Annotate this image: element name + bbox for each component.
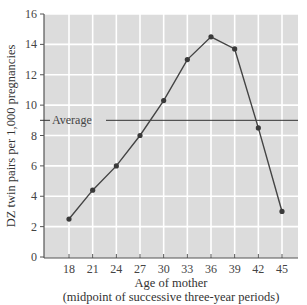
y-tick-label: 12 bbox=[25, 68, 37, 82]
y-tick-label: 10 bbox=[25, 98, 37, 112]
y-tick-label: 4 bbox=[31, 189, 37, 203]
x-tick-label: 45 bbox=[276, 262, 288, 276]
data-point bbox=[137, 133, 142, 138]
y-tick-label: 14 bbox=[25, 37, 37, 51]
data-point bbox=[279, 209, 284, 214]
x-tick-label: 24 bbox=[110, 262, 122, 276]
y-tick-label: 6 bbox=[31, 159, 37, 173]
y-tick-labels: 0246810121416 bbox=[25, 7, 37, 264]
data-point bbox=[66, 216, 71, 221]
x-tick-label: 36 bbox=[205, 262, 217, 276]
y-tick-label: 2 bbox=[31, 220, 37, 234]
average-label: Average bbox=[52, 113, 92, 127]
x-tick-labels: 18212427303336394245 bbox=[63, 262, 288, 276]
y-axis-title: DZ twin pairs per 1,000 pregnancies bbox=[4, 45, 18, 228]
twin-rate-chart: Average 0246810121416 182124273033363942… bbox=[0, 0, 307, 305]
data-point bbox=[185, 57, 190, 62]
x-axis-title: Age of mother bbox=[135, 276, 209, 290]
x-tick-label: 30 bbox=[158, 262, 170, 276]
x-tick-label: 18 bbox=[63, 262, 75, 276]
data-point bbox=[232, 46, 237, 51]
data-point bbox=[208, 34, 213, 39]
data-point bbox=[90, 188, 95, 193]
x-tick-label: 27 bbox=[134, 262, 146, 276]
x-axis-subtitle: (midpoint of successive three-year perio… bbox=[63, 290, 280, 304]
data-point bbox=[161, 98, 166, 103]
x-tick-label: 39 bbox=[229, 262, 241, 276]
y-tick-label: 16 bbox=[25, 7, 37, 21]
data-point bbox=[256, 125, 261, 130]
data-point bbox=[114, 163, 119, 168]
x-tick-label: 42 bbox=[252, 262, 264, 276]
x-tick-label: 21 bbox=[87, 262, 99, 276]
y-tick-label: 0 bbox=[31, 250, 37, 264]
y-tick-label: 8 bbox=[31, 129, 37, 143]
x-tick-label: 33 bbox=[181, 262, 193, 276]
